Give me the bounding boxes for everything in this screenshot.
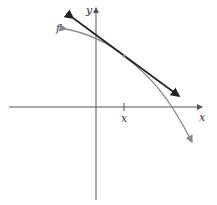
curve-label-f: f (55, 22, 62, 35)
y-axis-label: y (85, 4, 93, 17)
diagram-canvas: y x f x (0, 0, 217, 205)
x-axis-label: x (199, 111, 206, 124)
tangent-line (73, 18, 179, 96)
tick-label-x: x (121, 112, 128, 125)
curve-f (66, 29, 192, 142)
tangent-point (123, 55, 126, 58)
